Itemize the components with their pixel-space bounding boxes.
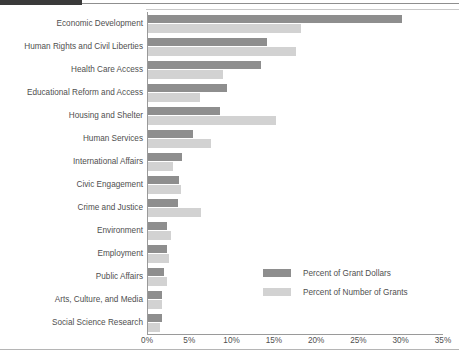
bars-container (148, 150, 448, 173)
bar-grant-dollars (148, 130, 193, 139)
bar-number-of-grants (148, 208, 201, 217)
bar-grant-dollars (148, 222, 167, 231)
bar-row: Civic Engagement (0, 173, 459, 196)
bars-container (148, 173, 448, 196)
bar-grant-dollars (148, 199, 178, 208)
category-label: Housing and Shelter (3, 104, 143, 127)
bar-number-of-grants (148, 24, 301, 33)
legend-item-grant-dollars: Percent of Grant Dollars (263, 266, 443, 282)
bar-number-of-grants (148, 162, 173, 171)
bars-container (148, 81, 448, 104)
x-tick-label: 5% (169, 336, 209, 345)
category-label: Environment (3, 219, 143, 242)
x-tick-label: 25% (338, 336, 378, 345)
bars-container (148, 104, 448, 127)
bar-grant-dollars (148, 245, 167, 254)
footer-rule (0, 349, 459, 350)
x-tick-label: 10% (212, 336, 252, 345)
bar-row: Employment (0, 242, 459, 265)
category-label: Social Science Research (3, 311, 143, 334)
x-tick-label: 35% (423, 336, 459, 345)
legend-item-number-of-grants: Percent of Number of Grants (263, 285, 443, 301)
bars-container (148, 58, 448, 81)
header-accent-strip (0, 0, 82, 5)
bar-row: Crime and Justice (0, 196, 459, 219)
bars-container (148, 35, 448, 58)
category-label: Civic Engagement (3, 173, 143, 196)
category-label: Human Services (3, 127, 143, 150)
bar-row: Educational Reform and Access (0, 81, 459, 104)
bar-row: Social Science Research (0, 311, 459, 334)
bar-row: Human Services (0, 127, 459, 150)
bars-container (148, 219, 448, 242)
bar-number-of-grants (148, 254, 169, 263)
bar-row: Environment (0, 219, 459, 242)
bar-grant-dollars (148, 84, 227, 93)
bar-grant-dollars (148, 314, 162, 323)
bar-row: International Affairs (0, 150, 459, 173)
category-label: Public Affairs (3, 265, 143, 288)
x-tick-label: 0% (127, 336, 167, 345)
bars-container (148, 311, 448, 334)
category-label: Arts, Culture, and Media (3, 288, 143, 311)
bar-number-of-grants (148, 139, 211, 148)
bar-grant-dollars (148, 107, 220, 116)
bar-grant-dollars (148, 15, 402, 24)
bar-grant-dollars (148, 153, 182, 162)
bars-container (148, 196, 448, 219)
category-label: Economic Development (3, 12, 143, 35)
bar-chart: Economic DevelopmentHuman Rights and Civ… (0, 0, 459, 354)
category-label: Educational Reform and Access (3, 81, 143, 104)
bar-grant-dollars (148, 38, 267, 47)
header-rule (82, 3, 459, 4)
header-rule-secondary (146, 9, 459, 10)
category-label: Health Care Access (3, 58, 143, 81)
bar-number-of-grants (148, 93, 200, 102)
bar-number-of-grants (148, 47, 296, 56)
bar-grant-dollars (148, 61, 261, 70)
category-label: Human Rights and Civil Liberties (3, 35, 143, 58)
legend-swatch-icon (263, 269, 291, 277)
bar-row: Health Care Access (0, 58, 459, 81)
legend-swatch-icon (263, 288, 291, 296)
bar-grant-dollars (148, 291, 162, 300)
category-label: Crime and Justice (3, 196, 143, 219)
legend-label: Percent of Grant Dollars (303, 266, 391, 281)
x-tick-label: 15% (254, 336, 294, 345)
bars-container (148, 242, 448, 265)
bars-container (148, 127, 448, 150)
x-axis-tick-labels: 0%5%10%15%20%25%30%35% (0, 336, 459, 350)
category-label: Employment (3, 242, 143, 265)
bar-number-of-grants (148, 300, 162, 309)
bar-number-of-grants (148, 70, 223, 79)
bar-number-of-grants (148, 116, 276, 125)
legend-label: Percent of Number of Grants (303, 285, 408, 300)
bar-number-of-grants (148, 277, 167, 286)
bar-grant-dollars (148, 268, 164, 277)
bar-grant-dollars (148, 176, 179, 185)
bars-container (148, 12, 448, 35)
chart-legend: Percent of Grant Dollars Percent of Numb… (263, 266, 443, 304)
category-label: International Affairs (3, 150, 143, 173)
x-tick-label: 20% (296, 336, 336, 345)
bar-row: Human Rights and Civil Liberties (0, 35, 459, 58)
bar-number-of-grants (148, 231, 171, 240)
x-tick-label: 30% (381, 336, 421, 345)
bar-row: Housing and Shelter (0, 104, 459, 127)
bar-number-of-grants (148, 185, 181, 194)
x-axis-line (147, 334, 443, 335)
bar-number-of-grants (148, 323, 160, 332)
bar-row: Economic Development (0, 12, 459, 35)
